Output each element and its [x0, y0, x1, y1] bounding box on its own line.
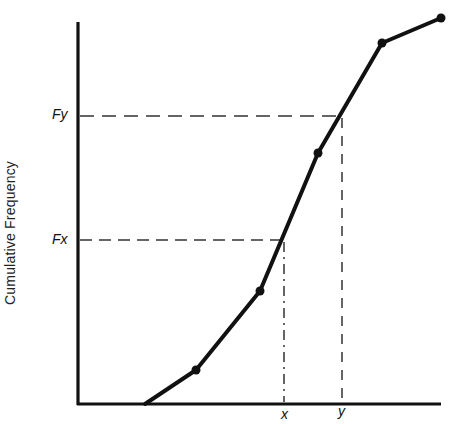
data-point-marker: [437, 14, 446, 23]
cumulative-frequency-chart: [0, 0, 454, 424]
data-point-marker: [256, 287, 265, 296]
y-tick-label: y: [338, 403, 345, 419]
cumulative-frequency-curve: [145, 18, 441, 404]
fx-tick-label: Fx: [52, 231, 68, 247]
x-tick-label: x: [281, 406, 288, 422]
data-point-markers: [192, 14, 446, 375]
fy-tick-label: Fy: [52, 106, 68, 122]
y-axis-label: Cumulative Frequency: [2, 133, 22, 333]
data-point-marker: [378, 39, 387, 48]
data-point-marker: [314, 149, 323, 158]
data-point-marker: [192, 366, 201, 375]
